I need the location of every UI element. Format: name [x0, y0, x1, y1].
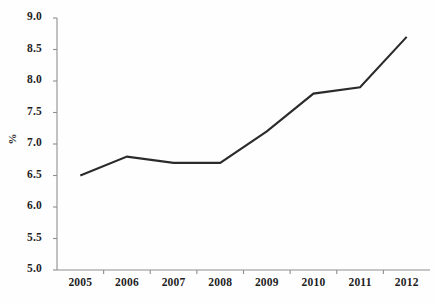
- x-axis-tick-label: 2009: [244, 276, 290, 288]
- data-series-line: [80, 37, 406, 176]
- x-axis-tick-label: 2008: [197, 276, 243, 288]
- x-axis-tick-label: 2012: [384, 276, 430, 288]
- plot-area: [0, 0, 436, 305]
- x-axis-tick-label: 2010: [290, 276, 336, 288]
- x-axis-tick-label: 2007: [151, 276, 197, 288]
- x-axis-tick-label: 2005: [57, 276, 103, 288]
- line-chart: % 9.08.58.07.57.06.56.05.55.0 2005200620…: [0, 0, 436, 305]
- y-axis-ticks: [53, 18, 57, 270]
- x-axis-ticks: [104, 270, 384, 274]
- axes: [57, 18, 430, 270]
- x-axis-tick-label: 2011: [337, 276, 383, 288]
- x-axis-tick-label: 2006: [104, 276, 150, 288]
